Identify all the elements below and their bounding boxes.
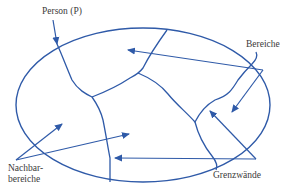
arrow-person (53, 20, 57, 44)
person-label: Person (P) (42, 6, 82, 17)
boundary-line-top (92, 30, 167, 97)
boundary-line-left (57, 44, 110, 182)
arrow-grenz-1 (210, 111, 256, 159)
grenzwaende-label: Grenzwände (213, 170, 261, 181)
bereiche-label: Bereiche (246, 39, 280, 50)
boundary-line-middle (138, 52, 257, 122)
arrow-bereiche-1 (128, 50, 263, 70)
arrow-bereiche-2 (232, 70, 263, 112)
nachbarbereiche-label-line1: Nachbar- (8, 163, 43, 174)
boundary-line-lower-right (195, 122, 217, 170)
nachbarbereiche-label-line2: bereiche (8, 174, 43, 185)
nachbarbereiche-label: Nachbar- bereiche (8, 163, 43, 185)
